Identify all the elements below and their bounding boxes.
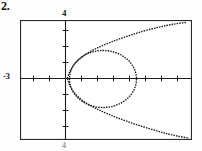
problem-number: 2. [1, 0, 9, 13]
y-axis-min-label: 4 [62, 141, 66, 150]
x-axis-min-label: -3 [3, 72, 10, 81]
calculator-screen [20, 20, 192, 140]
figure-container: 2. 4 -3 4 [0, 0, 202, 151]
y-axis-max-label: 4 [62, 9, 67, 18]
plot-frame [21, 21, 192, 140]
